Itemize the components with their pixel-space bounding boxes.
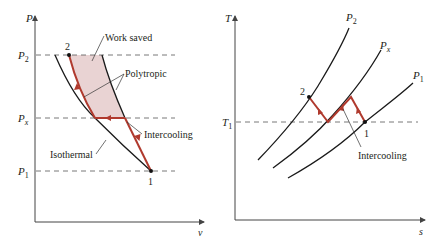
state-point-1 bbox=[149, 169, 153, 173]
v-axis-label: v bbox=[198, 227, 203, 238]
process-path-stage1 bbox=[125, 118, 151, 171]
isothermal-label: Isothermal bbox=[50, 149, 93, 160]
s-axis-label: s bbox=[419, 226, 423, 237]
p-axis-label: P bbox=[25, 12, 33, 24]
compression-diagrams: P v P2 Px P1 2 1 Work saved Polytropic I… bbox=[0, 0, 445, 246]
ts-diagram: T s T1 P2 Px P1 2 1 Intercooling bbox=[222, 11, 425, 237]
isothermal-leader bbox=[96, 140, 106, 154]
isobar-p2-label: P2 bbox=[345, 11, 357, 26]
isobar-px-label: Px bbox=[379, 39, 391, 54]
ts-state-2-label: 2 bbox=[300, 86, 305, 97]
state-1-label: 1 bbox=[148, 176, 153, 187]
px-label: Px bbox=[17, 112, 29, 127]
polytropic-label: Polytropic bbox=[125, 68, 167, 79]
ts-intercooling-label: Intercooling bbox=[358, 150, 407, 161]
pv-diagram: P v P2 Px P1 2 1 Work saved Polytropic I… bbox=[17, 12, 204, 238]
ts-state-point-1 bbox=[363, 120, 367, 124]
intercooling-label: Intercooling bbox=[144, 129, 193, 140]
work-saved-label: Work saved bbox=[105, 32, 152, 43]
ts-state-1-label: 1 bbox=[364, 128, 369, 139]
p1-label: P1 bbox=[17, 165, 29, 180]
state-point-2 bbox=[67, 53, 71, 57]
t-axis-label: T bbox=[225, 12, 232, 24]
isobar-p1-label: P1 bbox=[412, 69, 424, 84]
p2-label: P2 bbox=[17, 49, 29, 64]
t1-label: T1 bbox=[222, 116, 232, 131]
ts-state-point-2 bbox=[307, 95, 311, 99]
state-2-label: 2 bbox=[65, 41, 70, 52]
